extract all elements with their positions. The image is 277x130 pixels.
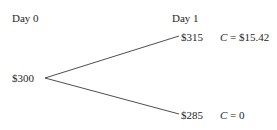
up-node-payoff: C = $15.42 xyxy=(220,31,269,43)
root-node-value: $300 xyxy=(12,72,34,84)
column-header-day1: Day 1 xyxy=(172,12,199,24)
binomial-tree-diagram: Day 0 Day 1 $300 $315 C = $15.42 $285 C … xyxy=(0,0,277,130)
up-payoff-expression: = $15.42 xyxy=(227,31,269,43)
up-node-value: $315 xyxy=(181,31,203,43)
column-header-day0: Day 0 xyxy=(12,12,39,24)
branch-up-line xyxy=(45,36,179,78)
branch-down-line xyxy=(45,78,179,114)
down-node-value: $285 xyxy=(181,109,203,121)
down-node-payoff: C = 0 xyxy=(220,109,245,121)
down-payoff-expression: = 0 xyxy=(227,109,244,121)
